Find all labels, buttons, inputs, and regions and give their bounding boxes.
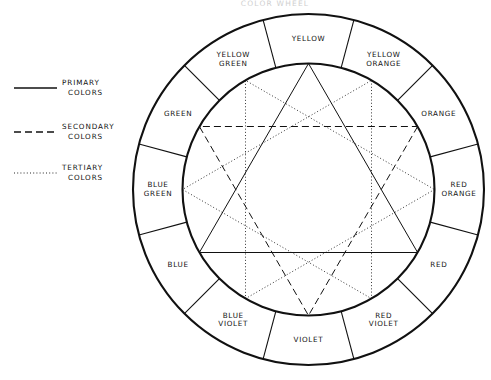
secondary-triangle [199,127,417,316]
color-relationship-triangles [183,64,435,316]
inner-circle [183,64,435,316]
segment-label-line2: GREEN [144,189,173,198]
segment-divider [263,311,276,359]
tertiary-triangle-warm [183,80,372,298]
segment-label-yellow: YELLOW [291,34,326,43]
color-wheel-svg: COLOR WHEEL PRIMARYCOLORSSECONDARYCOLORS… [0,0,491,380]
segment-label-yellow-orange: YELLOWORANGE [366,50,401,68]
segment-divider [139,144,187,157]
legend-label-line1: PRIMARY [62,78,100,87]
segment-label-line1: ORANGE [421,109,456,118]
segment-labels: YELLOWYELLOWORANGEORANGEREDORANGEREDREDV… [144,34,477,344]
segment-label-yellow-green: YELLOWGREEN [215,50,250,68]
segment-label-orange: ORANGE [421,109,456,118]
legend-label-line2: COLORS [68,173,103,182]
segment-divider [139,222,187,235]
tertiary-triangle-cool [246,80,435,298]
segment-label-blue-green: BLUEGREEN [144,180,173,198]
segment-label-line2: VIOLET [218,319,248,328]
segment-label-blue-violet: BLUEVIOLET [218,311,248,329]
segment-label-line1: YELLOW [291,34,326,43]
legend-label-line1: TERTIARY [61,163,103,172]
segment-label-line1: GREEN [164,109,193,118]
legend-label-line2: COLORS [68,132,103,141]
segment-divider [398,65,433,100]
legend-label-line2: COLORS [68,88,103,97]
segment-divider [184,65,219,100]
segment-divider [263,20,276,68]
segment-label-blue: BLUE [168,260,189,269]
legend-label-secondary: SECONDARYCOLORS [62,122,115,141]
segment-label-line1: VIOLET [294,335,324,344]
segment-divider [430,222,478,235]
legend-label-primary: PRIMARYCOLORS [62,78,103,97]
segment-label-line2: GREEN [219,59,248,68]
segment-label-line2: VIOLET [369,319,399,328]
legend-item-tertiary: TERTIARYCOLORS [14,163,103,182]
segment-divider [398,279,433,314]
segment-divider [184,279,219,314]
segment-label-line1: RED [430,260,447,269]
legend-label-line1: SECONDARY [62,122,115,131]
segment-label-red: RED [430,260,447,269]
legend-label-tertiary: TERTIARYCOLORS [61,163,103,182]
segment-dividers [139,20,478,359]
segment-label-violet: VIOLET [294,335,324,344]
segment-divider [341,20,354,68]
legend-item-secondary: SECONDARYCOLORS [14,122,115,141]
segment-divider [430,144,478,157]
primary-triangle [199,64,417,253]
segment-label-line1: BLUE [168,260,189,269]
legend: PRIMARYCOLORSSECONDARYCOLORSTERTIARYCOLO… [14,78,115,182]
segment-label-green: GREEN [164,109,193,118]
page-title: COLOR WHEEL [241,0,309,8]
color-wheel-diagram: COLOR WHEEL PRIMARYCOLORSSECONDARYCOLORS… [0,0,491,380]
segment-label-line2: ORANGE [442,189,477,198]
segment-divider [341,311,354,359]
legend-item-primary: PRIMARYCOLORS [14,78,103,97]
segment-label-red-orange: REDORANGE [442,180,477,198]
segment-label-red-violet: REDVIOLET [369,311,399,329]
segment-label-line2: ORANGE [366,59,401,68]
